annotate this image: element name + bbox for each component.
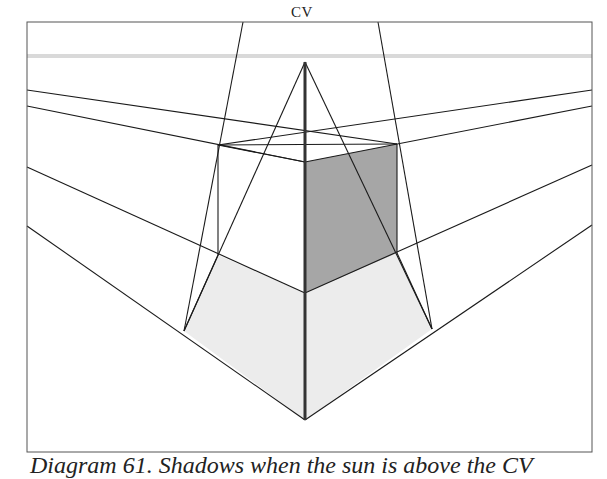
cv-label: CV [291, 4, 313, 21]
caption: Diagram 61. Shadows when the sun is abov… [30, 452, 533, 479]
